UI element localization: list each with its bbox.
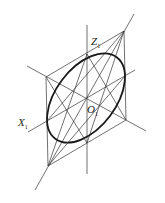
z-axis-label: Z1 [91,36,100,49]
construction-line-2 [47,31,124,121]
origin-label: O1 [87,104,98,117]
construction-drawing [0,0,165,203]
construction-line-3 [48,54,87,166]
construction-line-4 [48,76,125,166]
x-axis-label: X1 [18,117,28,130]
construction-line-5 [46,77,87,143]
